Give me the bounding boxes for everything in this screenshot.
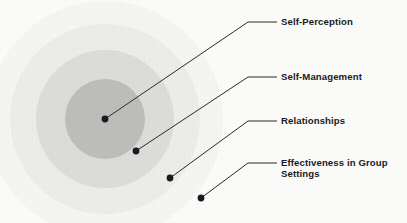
leader-line-relationships	[167, 121, 277, 181]
leader-line-self-management	[133, 77, 277, 154]
callout-label-self-management: Self-Management	[281, 71, 362, 82]
callout-label-relationships: Relationships	[281, 115, 345, 126]
leader-line-self-perception	[102, 22, 277, 122]
callout-label-self-perception: Self-Perception	[281, 16, 353, 27]
leader-line-effectiveness-in-group-settings	[198, 163, 277, 201]
marker-dot[interactable]	[198, 195, 205, 202]
leader-lines-group	[0, 0, 407, 223]
marker-dot[interactable]	[102, 116, 109, 123]
diagram-canvas: Self-Perception Self-Management Relation…	[0, 0, 407, 223]
marker-dot[interactable]	[133, 148, 140, 155]
callout-label-effectiveness-in-group-settings: Effectiveness in Group Settings	[281, 157, 388, 180]
marker-dot[interactable]	[167, 175, 174, 182]
